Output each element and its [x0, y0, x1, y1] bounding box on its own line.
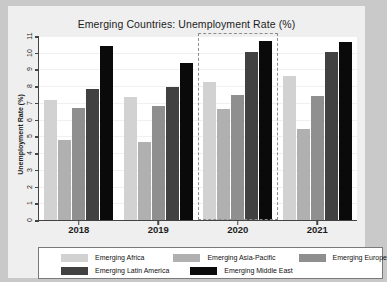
bar — [297, 129, 310, 220]
legend-item[interactable]: Emerging Europe — [299, 254, 387, 262]
legend-row: Emerging Latin AmericaEmerging Middle Ea… — [39, 264, 382, 277]
y-tick-label: 10 — [26, 48, 33, 58]
bar — [203, 82, 216, 220]
bar — [124, 97, 137, 220]
x-tick-label: 2018 — [68, 224, 89, 235]
legend-swatch — [190, 267, 217, 275]
legend-swatch — [61, 267, 88, 275]
bar — [138, 142, 151, 220]
chart-legend: Emerging AfricaEmerging Asia-PacificEmer… — [38, 247, 383, 279]
bar-group-2019 — [119, 36, 199, 220]
y-tick-label: 4 — [26, 148, 33, 158]
legend-label: Emerging Africa — [95, 254, 144, 261]
chart-title: Emerging Countries: Unemployment Rate (%… — [8, 18, 365, 30]
y-tick-label: 2 — [26, 182, 33, 192]
legend-swatch — [173, 254, 200, 262]
y-tick-label: 6 — [26, 115, 33, 125]
legend-label: Emerging Europe — [333, 254, 387, 261]
bar — [283, 76, 296, 220]
legend-row: Emerging AfricaEmerging Asia-PacificEmer… — [39, 251, 382, 264]
bar-group-2021 — [278, 36, 358, 220]
bar — [245, 52, 258, 220]
y-tick-label: 5 — [26, 131, 33, 141]
bar — [72, 108, 85, 220]
x-tick-label: 2020 — [227, 224, 248, 235]
bar — [311, 96, 324, 220]
bar — [217, 109, 230, 220]
plot-area: 01234567891011 2018201920202021 — [38, 36, 357, 221]
bar — [259, 41, 272, 220]
bar — [100, 46, 113, 220]
legend-item[interactable]: Emerging Middle East — [190, 267, 292, 275]
y-tick-label: 7 — [26, 98, 33, 108]
y-tick-label: 8 — [26, 81, 33, 91]
bar-group-2020 — [198, 36, 278, 220]
bar — [58, 140, 71, 220]
y-axis-label: Unemployment Rate (%) — [17, 80, 24, 190]
x-tick-label: 2021 — [307, 224, 328, 235]
y-tick-label: 0 — [26, 215, 33, 225]
bar — [339, 42, 352, 220]
legend-item[interactable]: Emerging Asia-Pacific — [173, 254, 275, 262]
y-tick-mark — [35, 220, 39, 222]
y-tick-label: 11 — [26, 31, 33, 41]
bar — [152, 106, 165, 220]
bar — [231, 95, 244, 220]
y-tick-label: 9 — [26, 64, 33, 74]
legend-item[interactable]: Emerging Latin America — [61, 267, 169, 275]
bar — [44, 100, 57, 220]
legend-swatch — [299, 254, 326, 262]
legend-label: Emerging Asia-Pacific — [207, 254, 275, 261]
legend-item[interactable]: Emerging Africa — [61, 254, 144, 262]
legend-swatch — [61, 254, 88, 262]
legend-label: Emerging Latin America — [95, 267, 169, 274]
y-tick-label: 3 — [26, 165, 33, 175]
x-tick-label: 2019 — [148, 224, 169, 235]
chart-figure: Emerging Countries: Unemployment Rate (%… — [8, 6, 365, 278]
bar — [180, 63, 193, 220]
y-tick-label: 1 — [26, 198, 33, 208]
bar — [325, 52, 338, 220]
bar-group-2018 — [39, 36, 119, 220]
legend-label: Emerging Middle East — [224, 267, 292, 274]
bar — [86, 89, 99, 220]
bar — [166, 87, 179, 220]
